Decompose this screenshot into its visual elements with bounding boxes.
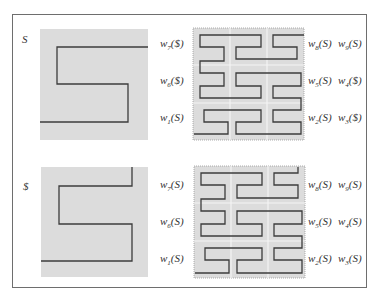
label-w8: w8(S) <box>308 37 332 52</box>
label-w8: w8(S) <box>308 178 332 193</box>
label-w9: w9(S) <box>338 178 362 193</box>
label-w3: w3($) <box>338 111 362 126</box>
label-w7: w7($) <box>160 37 184 52</box>
label-w6: w6(S) <box>160 215 184 230</box>
label-w4: w4($) <box>338 74 362 89</box>
label-w4: w4(S) <box>338 215 362 230</box>
label-w7: w7(S) <box>160 178 184 193</box>
label-w1: w1(S) <box>160 111 184 126</box>
refined-curve-box <box>193 28 304 140</box>
label-w9: w9(S) <box>338 37 362 52</box>
source-label-top: S <box>22 33 28 45</box>
label-w6: w6($) <box>160 74 184 89</box>
label-w1: w1(S) <box>160 252 184 267</box>
label-w2: w2(S) <box>308 111 332 126</box>
refined-curve-box <box>194 166 305 278</box>
label-w5: w5(S) <box>308 74 332 89</box>
label-w2: w2(S) <box>308 252 332 267</box>
label-w3: w3(S) <box>338 252 362 267</box>
label-w5: w5(S) <box>308 215 332 230</box>
source-label-bottom: $ <box>23 180 29 192</box>
